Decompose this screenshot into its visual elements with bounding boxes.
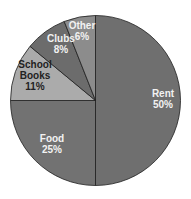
- pie-chart: Rent50%Food25%SchoolBooks11%Clubs8%Other…: [0, 0, 191, 199]
- slice-label-rent: Rent50%: [152, 88, 175, 110]
- slice-label-food: Food25%: [40, 133, 64, 155]
